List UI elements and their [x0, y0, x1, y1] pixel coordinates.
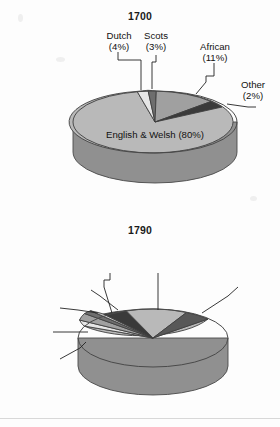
scan-speck — [18, 14, 23, 22]
label-african-1700: African (11%) — [186, 41, 244, 64]
pie-slices-1790 — [80, 309, 209, 338]
pie-slices-1700 — [69, 90, 233, 153]
leader-other-1790 — [202, 287, 238, 313]
leader-scots-1700 — [152, 55, 156, 89]
label-scots-pct-1700: (3%) — [132, 41, 180, 52]
label-english-welsh-pct-1700: (80%) — [178, 129, 204, 140]
scan-speck — [56, 57, 65, 62]
leader-german-1790 — [104, 273, 112, 313]
pie-graphic-1790 — [0, 214, 280, 427]
leader-irish-1790 — [60, 308, 98, 313]
pie-chart-1790: 1790 — [0, 214, 280, 427]
label-scots-1700: Scots (3%) — [132, 30, 180, 53]
label-english-welsh-name-1700: English & Welsh — [106, 129, 176, 140]
leader-other-1700 — [227, 104, 256, 107]
scan-speck — [250, 196, 257, 201]
label-other-1700: Other (2%) — [230, 79, 276, 102]
leader-african-1700 — [196, 63, 214, 94]
leader-scots-irish-1790 — [91, 290, 118, 310]
pie-3d-side-1790 — [78, 338, 228, 395]
label-african-pct-1700: (11%) — [186, 52, 244, 63]
label-african-name-1700: African — [200, 41, 230, 52]
label-other-name-1700: Other — [241, 79, 265, 90]
label-english-welsh-1700: English & Welsh (80%) — [95, 129, 215, 141]
bottom-divider — [0, 418, 280, 419]
label-other-pct-1700: (2%) — [230, 90, 276, 101]
label-dutch-name-1700: Dutch — [106, 30, 131, 41]
leader-dutch-1700 — [118, 52, 141, 90]
pie-chart-1700: 1700 — [0, 0, 280, 214]
chart-page: 1700 — [0, 0, 280, 427]
label-scots-name-1700: Scots — [144, 30, 168, 41]
